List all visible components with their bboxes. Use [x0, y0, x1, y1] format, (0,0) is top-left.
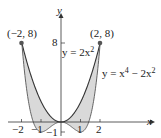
point-right: [98, 41, 103, 46]
x-axis-label: x: [146, 115, 152, 127]
chart-canvas: y x (−2, 8) (2, 8) 8 −1 −2 −1 1 2 y = 2x…: [0, 0, 161, 138]
tick-x-m1-label: −1: [31, 123, 43, 135]
tick-x-m2-label: −2: [12, 123, 24, 135]
tick-y-m1-label: −1: [46, 126, 58, 138]
point-left-label: (−2, 8): [7, 27, 37, 40]
tick-x-2-label: 2: [96, 123, 102, 135]
y-axis-label: y: [56, 4, 62, 16]
tick-y-8-label: 8: [52, 36, 58, 48]
curve-2x-squared-label: y = 2x2: [62, 45, 94, 58]
point-left: [19, 41, 24, 46]
tick-x-1-label: 1: [77, 123, 83, 135]
point-right-label: (2, 8): [90, 27, 114, 40]
curve-quartic-label: y = x4 − 2x2: [102, 66, 155, 79]
